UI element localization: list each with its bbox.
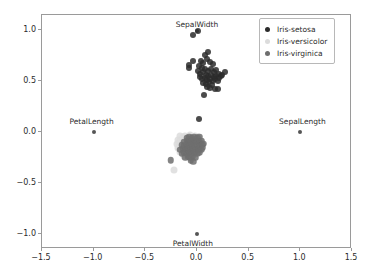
feature-vector-point xyxy=(92,130,96,134)
legend-item[interactable]: Iris-virginica xyxy=(265,47,327,59)
x-tick-mark xyxy=(351,248,352,251)
y-tick-label: 0.0 xyxy=(23,127,36,136)
legend-marker-icon xyxy=(265,27,270,32)
legend-marker-icon xyxy=(265,39,270,44)
scatter-point xyxy=(190,158,197,165)
x-tick-label: −1.5 xyxy=(31,253,50,262)
feature-vector-point xyxy=(195,232,199,236)
feature-vector-label: SepalLength xyxy=(279,116,326,125)
x-tick-mark xyxy=(196,248,197,251)
scatter-point xyxy=(186,65,192,71)
legend-label: Iris-virginica xyxy=(277,49,323,58)
legend-label: Iris-setosa xyxy=(277,25,316,34)
scatter-point xyxy=(190,58,196,64)
figure-canvas: SepalWidthPetalLengthSepalLengthPetalWid… xyxy=(0,0,370,278)
x-tick-label: 0.0 xyxy=(190,253,203,262)
y-tick-mark xyxy=(38,233,41,234)
y-tick-label: −1.0 xyxy=(17,228,36,237)
scatter-point xyxy=(167,157,174,164)
x-tick-label: −0.5 xyxy=(135,253,154,262)
y-tick-mark xyxy=(38,131,41,132)
legend-item[interactable]: Iris-versicolor xyxy=(265,35,327,47)
legend-label: Iris-versicolor xyxy=(277,37,327,46)
x-tick-mark xyxy=(299,248,300,251)
scatter-point xyxy=(200,140,207,147)
legend-marker-icon xyxy=(265,51,270,56)
y-tick-label: 0.5 xyxy=(23,76,36,85)
y-tick-label: −0.5 xyxy=(17,177,36,186)
scatter-point xyxy=(196,116,202,122)
feature-vector-point xyxy=(298,130,302,134)
x-tick-label: 0.5 xyxy=(241,253,254,262)
y-tick-mark xyxy=(38,182,41,183)
feature-vector-label: PetalWidth xyxy=(173,238,213,247)
scatter-point xyxy=(215,86,221,92)
x-tick-label: 1.5 xyxy=(345,253,358,262)
y-tick-mark xyxy=(38,80,41,81)
feature-vector-label: PetalLength xyxy=(69,116,113,125)
scatter-point xyxy=(215,78,221,84)
x-tick-mark xyxy=(144,248,145,251)
scatter-point xyxy=(170,167,177,174)
x-tick-mark xyxy=(93,248,94,251)
scatter-point xyxy=(201,92,207,98)
x-tick-mark xyxy=(41,248,42,251)
scatter-point xyxy=(195,28,201,34)
x-tick-label: −1.0 xyxy=(83,253,102,262)
y-tick-label: 1.0 xyxy=(23,25,36,34)
y-tick-mark xyxy=(38,29,41,30)
legend-item[interactable]: Iris-setosa xyxy=(265,23,327,35)
legend-box: Iris-setosaIris-versicolorIris-virginica xyxy=(259,18,335,64)
x-tick-label: 1.0 xyxy=(293,253,306,262)
x-tick-mark xyxy=(248,248,249,251)
